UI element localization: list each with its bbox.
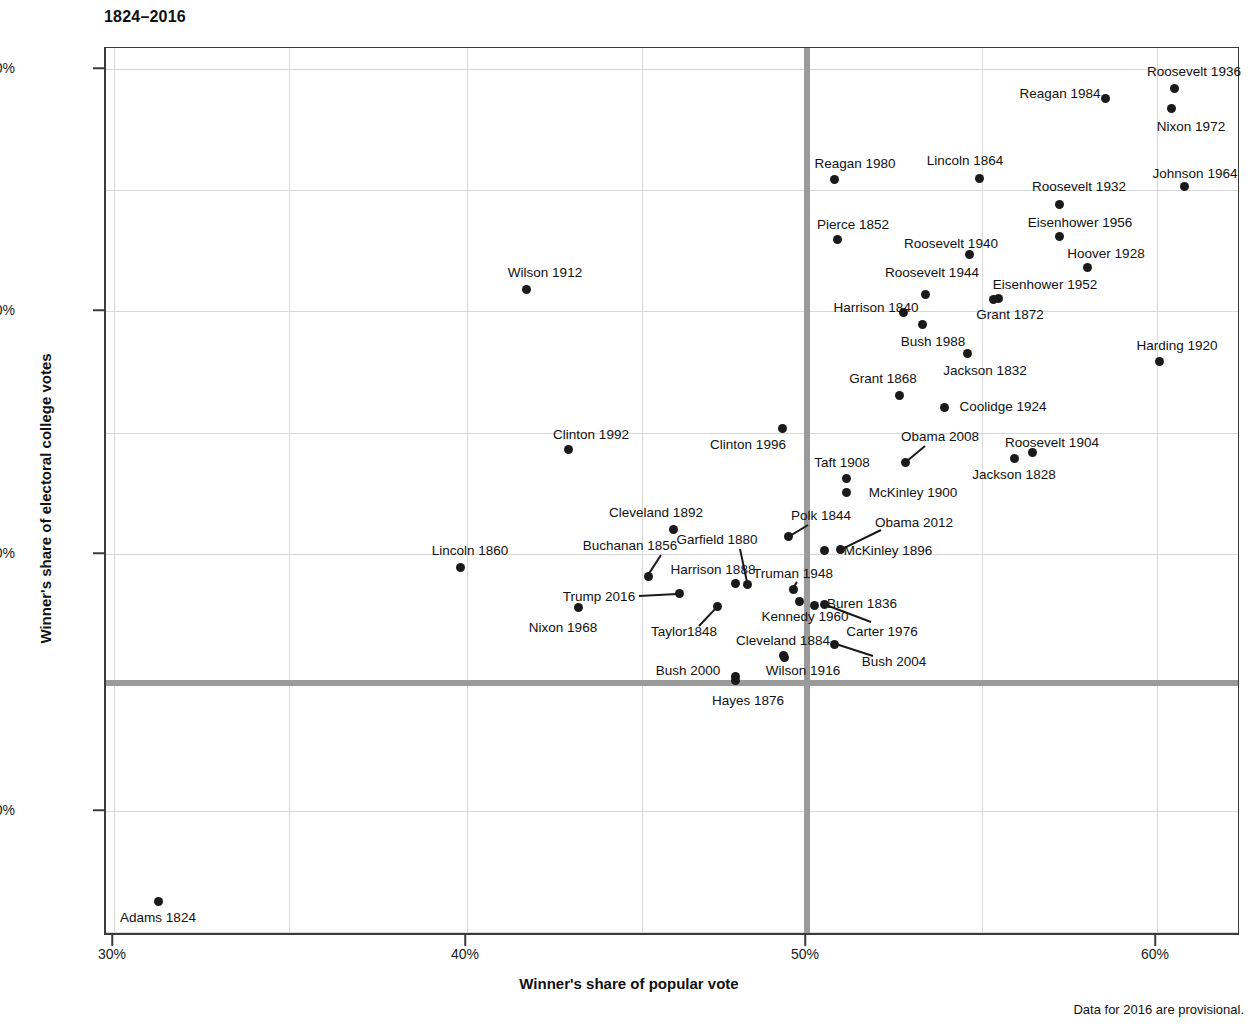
reference-line-vertical-50-percent: [804, 48, 810, 933]
gridline-horizontal: [106, 433, 1238, 434]
data-point[interactable]: [564, 445, 573, 454]
data-point-label: Clinton 1992: [553, 428, 629, 442]
gridline-vertical: [467, 48, 468, 933]
x-axis-title: Winner's share of popular vote: [0, 975, 1258, 992]
data-point[interactable]: [833, 235, 842, 244]
data-point[interactable]: [795, 597, 804, 606]
data-point[interactable]: [921, 290, 930, 299]
data-point[interactable]: [830, 640, 839, 649]
data-point-label: Truman 1948: [753, 567, 833, 581]
data-point-label: Polk 1844: [791, 509, 851, 523]
data-point-label: Pierce 1852: [817, 218, 889, 232]
x-axis-tick-label: 50%: [791, 946, 819, 962]
data-point-label: Eisenhower 1952: [993, 278, 1097, 292]
x-axis-tick-label: 60%: [1141, 946, 1169, 962]
data-point-label: Trump 2016: [563, 590, 635, 604]
data-point-label: Adams 1824: [120, 911, 196, 925]
x-axis-tick-mark: [1154, 935, 1156, 946]
data-point-label: Roosevelt 1944: [885, 266, 979, 280]
data-point[interactable]: [963, 349, 972, 358]
data-point[interactable]: [784, 532, 793, 541]
data-point[interactable]: [1083, 263, 1092, 272]
data-point[interactable]: [842, 474, 851, 483]
data-point[interactable]: [154, 897, 163, 906]
data-point-label: Cleveland 1884: [736, 634, 830, 648]
data-point[interactable]: [810, 601, 819, 610]
data-point-label: Roosevelt 1932: [1032, 180, 1126, 194]
data-point[interactable]: [644, 572, 653, 581]
y-axis-tick-mark: [93, 552, 104, 554]
data-point[interactable]: [836, 545, 845, 554]
data-point[interactable]: [456, 563, 465, 572]
data-point[interactable]: [1101, 94, 1110, 103]
data-point-label: Obama 2008: [901, 430, 979, 444]
data-point-label: Coolidge 1924: [959, 400, 1046, 414]
data-point-label: Harrison 1888: [671, 563, 756, 577]
data-point-label: Taylor1848: [651, 625, 717, 639]
data-point[interactable]: [940, 403, 949, 412]
leader-line: [639, 593, 677, 597]
data-point[interactable]: [895, 391, 904, 400]
data-point[interactable]: [1170, 84, 1179, 93]
data-point-label: Grant 1872: [976, 308, 1044, 322]
data-point-label: Garfield 1880: [676, 533, 757, 547]
data-point-label: Hoover 1928: [1067, 247, 1144, 261]
data-point-label: Grant 1868: [849, 372, 917, 386]
data-point[interactable]: [675, 589, 684, 598]
data-point[interactable]: [820, 546, 829, 555]
data-point-label: Nixon 1968: [529, 621, 597, 635]
data-point[interactable]: [1167, 104, 1176, 113]
data-point[interactable]: [901, 458, 910, 467]
data-point[interactable]: [975, 174, 984, 183]
data-point[interactable]: [1010, 454, 1019, 463]
data-point-label: Hayes 1876: [712, 694, 784, 708]
chart-title: 1824–2016: [104, 8, 186, 26]
gridline-horizontal: [106, 554, 1238, 555]
data-point-label: Buchanan 1856: [583, 539, 678, 553]
data-point-label: Clinton 1996: [710, 438, 786, 452]
data-point-label: Nixon 1972: [1157, 120, 1225, 134]
data-point[interactable]: [743, 580, 752, 589]
data-point[interactable]: [918, 320, 927, 329]
data-point[interactable]: [669, 525, 678, 534]
plot-area: Adams 1824Jackson 1828Jackson 1832Buren …: [104, 47, 1239, 935]
y-axis-tick-mark: [93, 809, 104, 811]
data-point[interactable]: [522, 285, 531, 294]
data-point[interactable]: [778, 424, 787, 433]
data-point-label: Kennedy 1960: [761, 610, 848, 624]
data-point-label: Obama 2012: [875, 516, 953, 530]
data-point-label: Wilson 1912: [508, 266, 582, 280]
y-axis-tick-mark: [93, 67, 104, 69]
data-point-label: Jackson 1828: [972, 468, 1055, 482]
data-point[interactable]: [731, 672, 740, 681]
data-point[interactable]: [789, 585, 798, 594]
data-point[interactable]: [830, 175, 839, 184]
data-point-label: McKinley 1896: [844, 544, 933, 558]
data-point[interactable]: [1155, 357, 1164, 366]
data-point[interactable]: [1055, 200, 1064, 209]
data-point[interactable]: [780, 653, 789, 662]
data-point-label: Eisenhower 1956: [1028, 216, 1132, 230]
gridline-vertical: [642, 48, 643, 933]
data-point[interactable]: [989, 295, 998, 304]
data-point[interactable]: [842, 488, 851, 497]
y-axis-tick-mark: [93, 309, 104, 311]
data-point-label: Roosevelt 1940: [904, 237, 998, 251]
chart-root: 1824–2016 Adams 1824Jackson 1828Jackson …: [0, 0, 1258, 1028]
data-point-label: Bush 1988: [901, 335, 966, 349]
gridline-horizontal: [106, 311, 1238, 312]
y-axis-tick-label: 80%: [0, 302, 15, 318]
data-point-label: Lincoln 1860: [432, 544, 509, 558]
data-point-label: Carter 1976: [846, 625, 917, 639]
data-point[interactable]: [731, 579, 740, 588]
footnote: Data for 2016 are provisional.: [1073, 1002, 1244, 1017]
x-axis-tick-mark: [464, 935, 466, 946]
data-point[interactable]: [713, 602, 722, 611]
y-axis-tick-label: 100%: [0, 60, 15, 76]
x-axis-tick-mark: [111, 935, 113, 946]
data-point-label: Roosevelt 1904: [1005, 436, 1099, 450]
data-point[interactable]: [1180, 182, 1189, 191]
y-axis-title: Winner's share of electoral college vote…: [37, 149, 54, 849]
data-point[interactable]: [1055, 232, 1064, 241]
data-point[interactable]: [820, 600, 829, 609]
